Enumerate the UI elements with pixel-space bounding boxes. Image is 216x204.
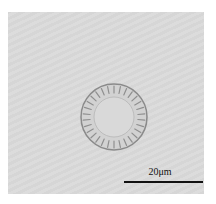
scale-bar-label: 20μm bbox=[138, 166, 182, 177]
scale-bar bbox=[124, 181, 203, 183]
micrograph-panel: 20μm bbox=[8, 12, 204, 194]
diatom-specimen bbox=[79, 82, 149, 152]
